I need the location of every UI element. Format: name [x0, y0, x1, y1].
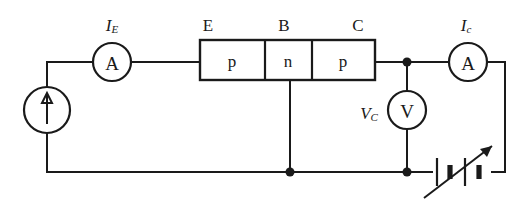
- collector-ammeter-symbol: A: [461, 53, 475, 74]
- emitter-layer-label: p: [228, 52, 237, 71]
- emitter-terminal-label: E: [203, 16, 213, 35]
- battery-variable-arrow-shaft: [424, 146, 492, 198]
- collector-terminal-label: C: [352, 16, 363, 35]
- base-layer-label: n: [284, 52, 293, 71]
- node-base-bottom: [286, 168, 295, 177]
- node-voltmeter-top: [403, 58, 412, 67]
- emitter-current-label: IE: [105, 16, 119, 36]
- collector-voltmeter-symbol: V: [400, 101, 414, 122]
- collector-current-label: Ic: [460, 16, 472, 36]
- emitter-ammeter-symbol: A: [105, 53, 119, 74]
- base-terminal-label: B: [278, 16, 289, 35]
- battery-variable-arrow-head: [480, 146, 492, 157]
- node-voltmeter-bottom: [403, 168, 412, 177]
- circuit-diagram: A IE p n p E B C V VC A Ic: [0, 0, 529, 205]
- collector-layer-label: p: [339, 52, 348, 71]
- circuit-canvas: A IE p n p E B C V VC A Ic: [0, 0, 529, 205]
- collector-voltage-label: VC: [360, 104, 378, 124]
